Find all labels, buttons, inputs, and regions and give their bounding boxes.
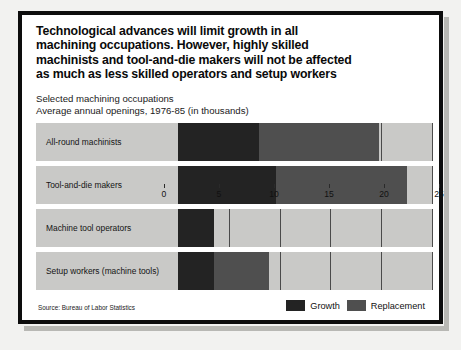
- bar-row: [178, 252, 432, 290]
- subtitle-line-2: Average annual openings, 1976-85 (in tho…: [36, 105, 416, 117]
- gridline: [330, 252, 331, 290]
- gridline: [229, 209, 230, 247]
- gridline: [381, 252, 382, 290]
- legend-label-replacement: Replacement: [371, 301, 425, 311]
- chart-figure: Technological advances will limit growth…: [0, 0, 461, 350]
- x-tick-label: 20: [379, 189, 389, 199]
- gridline: [280, 252, 281, 290]
- gridline: [432, 123, 433, 161]
- gridline: [432, 209, 433, 247]
- x-tick-label: 5: [217, 189, 222, 199]
- gridline: [432, 252, 433, 290]
- x-tick-label: 15: [324, 189, 334, 199]
- bar-segment-growth: [178, 123, 259, 161]
- x-axis: 0510152025: [164, 184, 439, 202]
- bar-segment-growth: [178, 209, 214, 247]
- headline-line-2: machining occupations. However, highly s…: [36, 38, 428, 52]
- gridline: [381, 123, 382, 161]
- x-tick-mark: [274, 184, 275, 188]
- source-note: Source: Bureau of Labor Statistics: [38, 304, 135, 311]
- x-tick-mark: [439, 184, 440, 188]
- category-row: Tool-and-die makers: [36, 166, 178, 204]
- bar-segment-replacement: [214, 252, 270, 290]
- category-row: Machine tool operators: [36, 209, 178, 247]
- bars-column: [178, 123, 432, 290]
- frame-shadow-bottom: [24, 326, 449, 331]
- x-tick-mark: [164, 184, 165, 188]
- gridline: [280, 209, 281, 247]
- x-tick-label: 0: [162, 189, 167, 199]
- x-tick-label: 25: [434, 189, 444, 199]
- legend-label-growth: Growth: [310, 301, 340, 311]
- category-label: All-round machinists: [36, 123, 178, 161]
- category-label-column: All-round machinistsTool-and-die makersM…: [36, 123, 178, 290]
- x-tick-mark: [384, 184, 385, 188]
- bar-segment-growth: [178, 252, 214, 290]
- chart-legend: GrowthReplacement: [286, 300, 425, 311]
- page-title: Technological advances will limit growth…: [36, 24, 428, 82]
- category-label: Setup workers (machine tools): [36, 252, 178, 290]
- bar-track: [178, 252, 432, 290]
- legend-swatch-replacement: [347, 300, 366, 311]
- x-tick-mark: [329, 184, 330, 188]
- plot-area: All-round machinistsTool-and-die makersM…: [36, 123, 432, 290]
- headline-line-4: as much as less skilled operators and se…: [36, 67, 428, 81]
- headline-line-3: machinists and tool-and-die makers will …: [36, 53, 428, 67]
- frame-shadow-right: [444, 17, 449, 329]
- figure-frame: Technological advances will limit growth…: [18, 11, 443, 324]
- category-row: All-round machinists: [36, 123, 178, 161]
- headline-line-1: Technological advances will limit growth…: [36, 24, 428, 38]
- category-row: Setup workers (machine tools): [36, 252, 178, 290]
- category-label: Machine tool operators: [36, 209, 178, 247]
- bar-row: [178, 209, 432, 247]
- legend-item-growth: Growth: [286, 300, 340, 311]
- bar-track: [178, 209, 432, 247]
- legend-swatch-growth: [286, 300, 305, 311]
- legend-item-replacement: Replacement: [347, 300, 425, 311]
- chart-subtitle: Selected machining occupations Average a…: [36, 93, 416, 117]
- bar-track: [178, 123, 432, 161]
- bar-row: [178, 123, 432, 161]
- bar-segment-replacement: [259, 123, 379, 161]
- subtitle-line-1: Selected machining occupations: [36, 93, 416, 105]
- x-tick-label: 10: [269, 189, 279, 199]
- x-tick-mark: [219, 184, 220, 188]
- category-label: Tool-and-die makers: [36, 166, 178, 204]
- gridline: [330, 209, 331, 247]
- gridline: [381, 209, 382, 247]
